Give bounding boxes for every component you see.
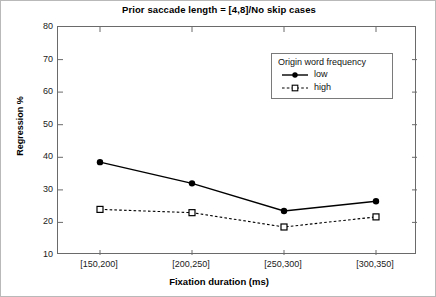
data-point-high: [373, 214, 379, 220]
plot-area: Origin word frequency low high: [57, 26, 416, 254]
y-tick-label: 70: [27, 55, 53, 64]
y-tick-label: 10: [27, 250, 53, 259]
series-line-high: [100, 209, 376, 227]
y-tick-label: 20: [27, 217, 53, 226]
x-axis-ticks: [150,200] [200,250] [250,300] [300,350]: [57, 259, 416, 273]
y-axis-ticks: 80 70 60 50 40 30 20 10: [23, 26, 53, 254]
legend-item-low: low: [280, 68, 392, 81]
data-point-low: [281, 208, 287, 214]
x-tick-label: [200,250]: [146, 259, 236, 270]
y-tick-label: 30: [27, 185, 53, 194]
data-point-low: [189, 180, 195, 186]
y-tick-label: 80: [27, 22, 53, 31]
page-title: Prior saccade length = [4,8]/No skip cas…: [1, 4, 436, 15]
chart-figure: Prior saccade length = [4,8]/No skip cas…: [0, 0, 436, 297]
y-tick-label: 60: [27, 87, 53, 96]
data-point-high: [189, 210, 195, 216]
data-point-high: [281, 224, 287, 230]
legend-key-high-icon: [280, 82, 310, 94]
legend-title: Origin word frequency: [278, 57, 392, 68]
x-tick-label: [300,350]: [330, 259, 420, 270]
legend: Origin word frequency low high: [271, 53, 393, 99]
x-tick-label: [150,200]: [54, 259, 144, 270]
series-line-low: [100, 162, 376, 211]
legend-label-high: high: [314, 82, 331, 93]
legend-key-low-icon: [280, 69, 310, 81]
data-point-high: [97, 206, 103, 212]
legend-item-high: high: [280, 81, 392, 94]
x-tick-label: [250,300]: [238, 259, 328, 270]
data-point-low: [97, 159, 103, 165]
y-tick-label: 50: [27, 120, 53, 129]
legend-label-low: low: [314, 69, 328, 80]
x-axis-label: Fixation duration (ms): [1, 276, 436, 287]
series-markers-high: [97, 206, 379, 230]
y-tick-label: 40: [27, 152, 53, 161]
data-point-low: [373, 198, 379, 204]
